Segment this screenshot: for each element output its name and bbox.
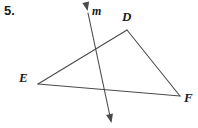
vertex-label-F: F: [184, 91, 193, 104]
segment-ED: [38, 30, 127, 84]
vertex-label-E: E: [19, 71, 28, 84]
geometry-figure: [0, 0, 198, 128]
arrowhead-up-icon: [82, 2, 89, 12]
figure-page: 5. m D E F: [0, 0, 198, 128]
arrowhead-down-icon: [106, 113, 113, 123]
line-m: [88, 13, 111, 121]
segment-DF: [127, 30, 180, 96]
segment-EF: [38, 84, 180, 96]
vertex-label-D: D: [122, 10, 131, 23]
line-label-m: m: [92, 5, 101, 17]
